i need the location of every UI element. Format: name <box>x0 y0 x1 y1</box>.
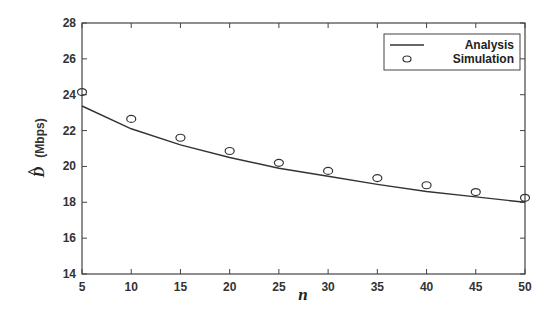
simulation-marker <box>127 115 136 122</box>
y-axis-label: D ^ (Mbps) <box>25 118 47 178</box>
x-tick-label: 25 <box>272 280 286 294</box>
x-tick-label: 50 <box>518 280 532 294</box>
x-axis-label: n <box>298 285 307 304</box>
x-tick-label: 10 <box>125 280 139 294</box>
x-tick-label: 15 <box>174 280 188 294</box>
simulation-marker <box>274 159 283 166</box>
y-tick-label: 22 <box>63 124 77 138</box>
y-tick-label: 26 <box>63 52 77 66</box>
simulation-marker <box>422 182 431 189</box>
simulation-marker <box>225 148 234 155</box>
x-tick-label: 5 <box>79 280 86 294</box>
simulation-marker <box>176 134 185 141</box>
y-tick-label: 18 <box>63 195 77 209</box>
series-layer <box>78 89 530 203</box>
legend-label: Simulation <box>453 52 514 66</box>
chart: 1416182022242628 5101520253035404550 Ana… <box>0 0 558 311</box>
y-tick-label: 16 <box>63 231 77 245</box>
y-tick-label: 24 <box>63 88 77 102</box>
y-tick-label: 28 <box>63 16 77 30</box>
y-tick-label: 20 <box>63 159 77 173</box>
x-tick-label: 30 <box>321 280 335 294</box>
simulation-marker <box>324 167 333 174</box>
analysis-line <box>82 106 525 202</box>
x-tick-label: 40 <box>420 280 434 294</box>
x-tick-label: 35 <box>371 280 385 294</box>
x-tick-label: 45 <box>469 280 483 294</box>
simulation-marker <box>471 189 480 196</box>
y-axis-hat: ^ <box>25 168 41 177</box>
y-tick-label: 14 <box>63 267 77 281</box>
legend: AnalysisSimulation <box>384 34 520 70</box>
legend-label: Analysis <box>465 38 515 52</box>
simulation-marker <box>373 175 382 182</box>
x-tick-label: 20 <box>223 280 237 294</box>
y-axis-unit: (Mbps) <box>33 118 47 157</box>
